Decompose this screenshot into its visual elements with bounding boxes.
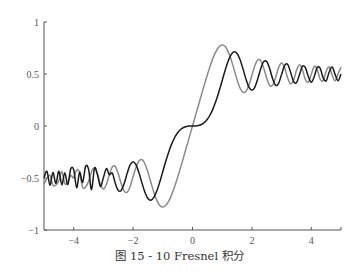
y-tick-label: 1 [34, 17, 39, 28]
y-tick-label: −0.5 [21, 173, 39, 184]
axes: −1−0.500.51−4−2024 [21, 17, 341, 247]
series-fresnel-s [44, 52, 341, 200]
fresnel-chart: −1−0.500.51−4−2024 [0, 0, 359, 279]
y-tick-label: 0.5 [27, 69, 40, 80]
y-tick-label: 0 [34, 121, 39, 132]
x-tick-label: 0 [190, 235, 195, 246]
x-tick-label: −4 [68, 235, 79, 246]
figure-caption: 图 15 - 10 Fresnel 积分 [0, 247, 359, 263]
y-tick-label: −1 [28, 225, 39, 236]
series-group [44, 45, 341, 207]
x-tick-label: 2 [249, 235, 254, 246]
x-tick-label: −2 [128, 235, 139, 246]
x-tick-label: 4 [309, 235, 314, 246]
